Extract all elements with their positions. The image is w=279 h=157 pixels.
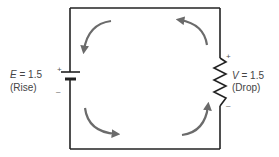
arrow-bottom-right-icon [182, 106, 208, 135]
load-minus-sign: – [226, 102, 230, 110]
load-label: V = 1.5 [232, 70, 264, 81]
arrow-top-left-icon [84, 21, 111, 50]
arrow-bottom-left-icon [85, 108, 116, 134]
arrow-top-right-icon [180, 20, 207, 45]
source-symbol: E [10, 69, 17, 80]
source-label: E = 1.5 [10, 69, 42, 80]
source-equals: = [19, 69, 25, 80]
load-equals: = [241, 70, 247, 81]
resistor-icon [214, 58, 226, 106]
source-plus-sign: + [57, 66, 62, 74]
source-value: 1.5 [28, 69, 42, 80]
source-minus-sign: – [56, 88, 60, 96]
load-plus-sign: + [226, 53, 231, 61]
source-note: (Rise) [10, 82, 37, 93]
load-value: 1.5 [250, 70, 264, 81]
load-symbol: V [232, 70, 239, 81]
battery-icon [61, 72, 80, 79]
load-note: (Drop) [232, 82, 260, 93]
